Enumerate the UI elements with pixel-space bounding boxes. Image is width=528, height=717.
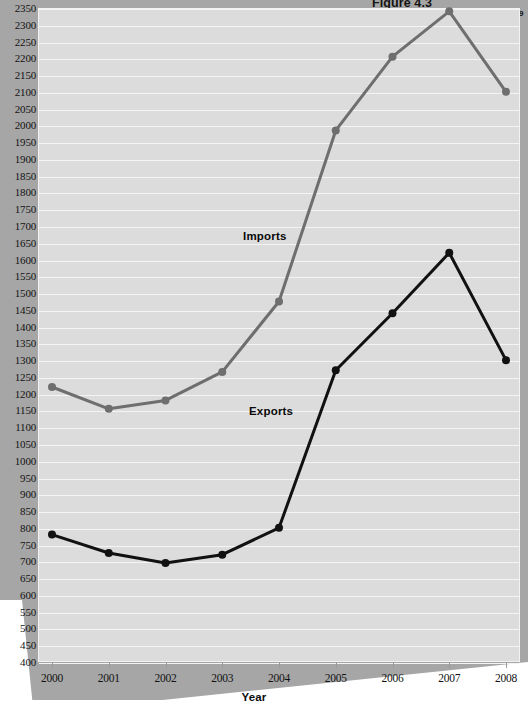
data-point-imports-2006 (389, 53, 397, 61)
data-point-exports-2000 (48, 531, 56, 539)
data-point-imports-2004 (275, 297, 283, 305)
data-point-exports-2007 (445, 249, 453, 257)
data-point-exports-2008 (502, 356, 510, 364)
data-point-imports-2008 (502, 88, 510, 96)
chart-series-layer (0, 0, 528, 717)
data-point-exports-2002 (162, 559, 170, 567)
data-point-exports-2001 (105, 549, 113, 557)
series-line-imports (52, 11, 506, 408)
data-point-imports-2005 (332, 126, 340, 134)
data-point-imports-2002 (162, 396, 170, 404)
data-point-imports-2007 (445, 7, 453, 15)
figure-container: Figure 4.3 U.S. Imports and Exports9 400… (0, 0, 528, 717)
data-point-imports-2000 (48, 383, 56, 391)
data-point-exports-2006 (389, 309, 397, 317)
series-label-exports: Exports (249, 405, 293, 417)
data-point-exports-2003 (218, 551, 226, 559)
data-point-exports-2005 (332, 366, 340, 374)
data-point-imports-2001 (105, 405, 113, 413)
series-label-imports: Imports (243, 230, 287, 242)
data-point-imports-2003 (218, 368, 226, 376)
data-point-exports-2004 (275, 524, 283, 532)
